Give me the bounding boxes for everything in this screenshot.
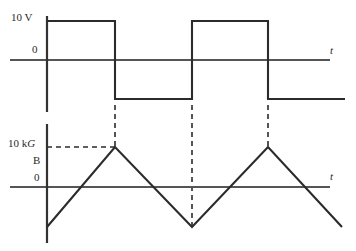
flux-amplitude-label: 10 kG [8,138,35,149]
bottom-time-axis-label: t [330,171,333,182]
waveform-figure: 10 V 0 t 10 kG B 0 t [0,0,356,251]
guide-lines [47,105,268,230]
flux-amplitude-unit: G [27,137,35,149]
voltage-amplitude-label: 10 V [11,12,33,23]
flux-amplitude-value: 10 k [8,137,27,149]
top-panel [10,16,345,112]
bottom-panel [10,124,342,243]
flux-zero-label: 0 [34,172,40,183]
flux-symbol-label: B [33,155,40,166]
voltage-zero-label: 0 [32,44,38,55]
waveform-plot [0,0,356,251]
top-time-axis-label: t [330,45,333,56]
